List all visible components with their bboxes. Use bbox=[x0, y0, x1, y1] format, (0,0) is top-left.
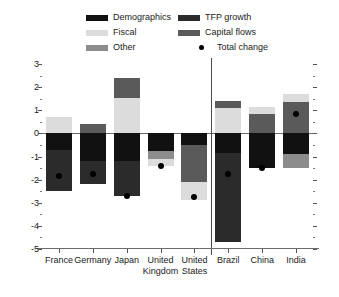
legend-tfp-growth: TFP growth bbox=[178, 10, 296, 25]
bar-segment bbox=[148, 151, 174, 159]
y-axis-tick-mark bbox=[313, 64, 317, 65]
total-change-dot bbox=[56, 173, 62, 179]
y-axis-tick-mark bbox=[38, 64, 42, 65]
legend-item-label: Other bbox=[113, 43, 136, 52]
total-change-dot bbox=[191, 194, 197, 200]
legend-swatch-icon bbox=[178, 15, 200, 21]
legend-capital-flows: Capital flows bbox=[178, 25, 296, 40]
y-axis-minor-tick-mark bbox=[313, 145, 315, 146]
x-axis-tick-mark bbox=[59, 249, 60, 253]
bar-segment bbox=[148, 133, 174, 150]
y-axis-minor-tick-mark bbox=[40, 122, 42, 123]
legend-item-label: Demographics bbox=[113, 13, 171, 22]
bar-segment bbox=[215, 108, 241, 133]
legend-swatch-icon bbox=[86, 30, 108, 36]
legend-dot-marker-icon bbox=[190, 45, 212, 50]
bar-segment bbox=[283, 154, 309, 168]
bar-group bbox=[46, 64, 72, 249]
y-axis-tick-label: -2 bbox=[19, 175, 39, 184]
legend-demographics: Demographics bbox=[86, 10, 178, 25]
bar-segment bbox=[46, 117, 72, 133]
y-axis-minor-tick-mark bbox=[40, 99, 42, 100]
y-axis-tick-mark bbox=[38, 87, 42, 88]
bar-segment bbox=[46, 150, 72, 192]
y-axis-tick-mark bbox=[38, 110, 42, 111]
bar-group bbox=[114, 64, 140, 249]
legend-swatch-icon bbox=[178, 30, 200, 36]
y-axis-minor-tick-mark bbox=[40, 214, 42, 215]
y-axis-tick-label: -1 bbox=[19, 152, 39, 161]
total-change-dot bbox=[293, 111, 299, 117]
y-axis-tick-label: 3 bbox=[19, 60, 39, 69]
y-axis-tick-mark bbox=[38, 249, 42, 250]
legend-total-change: Total change bbox=[178, 40, 296, 55]
bar-segment bbox=[283, 133, 309, 154]
bar-segment bbox=[80, 124, 106, 133]
bar-segment bbox=[80, 133, 106, 161]
bar-segment bbox=[215, 153, 241, 242]
y-axis-minor-tick-mark bbox=[313, 122, 315, 123]
bar-segment bbox=[114, 161, 140, 196]
bar-segment bbox=[215, 133, 241, 153]
bar-segment bbox=[114, 98, 140, 134]
y-axis-tick-label: -5 bbox=[19, 245, 39, 254]
total-change-dot bbox=[259, 165, 265, 171]
legend-item-label: Total change bbox=[217, 43, 268, 52]
y-axis-tick-mark bbox=[38, 180, 42, 181]
bar-group bbox=[148, 64, 174, 249]
y-axis-tick-label: 0 bbox=[19, 129, 39, 138]
y-axis-tick-mark bbox=[313, 87, 317, 88]
legend-swatch-icon bbox=[86, 15, 108, 21]
bar-segment bbox=[283, 102, 309, 133]
bar-segment bbox=[114, 78, 140, 98]
y-axis-minor-tick-mark bbox=[40, 168, 42, 169]
bar-segment bbox=[283, 94, 309, 102]
x-axis-tick-mark bbox=[93, 249, 94, 253]
y-axis-minor-tick-mark bbox=[313, 168, 315, 169]
legend-item-label: Fiscal bbox=[113, 28, 137, 37]
x-axis-tick-mark bbox=[194, 249, 195, 253]
bar-group bbox=[80, 64, 106, 249]
bar-segment bbox=[46, 133, 72, 149]
y-axis-tick-label: 2 bbox=[19, 83, 39, 92]
economy-group-divider bbox=[211, 58, 212, 255]
y-axis-tick-label: -4 bbox=[19, 221, 39, 230]
legend-fiscal: Fiscal bbox=[86, 25, 178, 40]
bar-segment bbox=[181, 145, 207, 182]
total-change-dot bbox=[90, 171, 96, 177]
y-axis-tick-mark bbox=[38, 133, 42, 134]
y-axis-minor-tick-mark bbox=[40, 191, 42, 192]
y-axis-tick-mark bbox=[38, 226, 42, 227]
y-axis-minor-tick-mark bbox=[313, 99, 315, 100]
y-axis-tick-label: -3 bbox=[19, 198, 39, 207]
x-axis-category-label: India bbox=[267, 255, 325, 266]
bar-segment bbox=[114, 133, 140, 161]
total-change-dot bbox=[158, 163, 164, 169]
y-axis-tick-mark bbox=[38, 203, 42, 204]
y-axis-tick-mark bbox=[313, 157, 317, 158]
total-change-dot bbox=[124, 193, 130, 199]
chart-legend: DemographicsTFP growthFiscalCapital flow… bbox=[86, 10, 296, 55]
y-axis-minor-tick-mark bbox=[40, 76, 42, 77]
x-axis-tick-mark bbox=[127, 249, 128, 253]
y-axis-tick-mark bbox=[313, 226, 317, 227]
plot-area: 3210-1-2-3-4-5FranceGermanyJapanUnited K… bbox=[42, 64, 313, 249]
x-axis-tick-mark bbox=[161, 249, 162, 253]
x-axis-tick-mark bbox=[262, 249, 263, 253]
bar-group bbox=[215, 64, 241, 249]
y-axis-tick-mark bbox=[313, 203, 317, 204]
total-change-dot bbox=[225, 171, 231, 177]
y-axis-tick-label: 1 bbox=[19, 106, 39, 115]
bar-group bbox=[249, 64, 275, 249]
x-axis-tick-mark bbox=[296, 249, 297, 253]
bar-segment bbox=[181, 133, 207, 145]
bar-group bbox=[181, 64, 207, 249]
x-axis-baseline bbox=[36, 248, 319, 249]
bar-group bbox=[283, 64, 309, 249]
y-axis-minor-tick-mark bbox=[313, 76, 315, 77]
legend-swatch-icon bbox=[86, 45, 108, 51]
y-axis-minor-tick-mark bbox=[313, 214, 315, 215]
legend-other: Other bbox=[86, 40, 178, 55]
bar-segment bbox=[215, 101, 241, 108]
bar-segment bbox=[249, 114, 275, 134]
